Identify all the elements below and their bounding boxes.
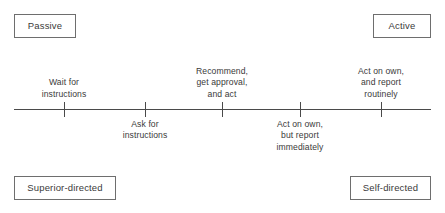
tick-label-act-on-own-and-report-routinely: Act on own,and reportroutinely: [358, 66, 404, 100]
tick-label-line: routinely: [358, 89, 404, 100]
tick-label-line: get approval,: [196, 77, 248, 88]
tick-label-ask-for-instructions: Ask forinstructions: [123, 119, 168, 142]
tick-mark-act-on-own-but-report-immediately: [300, 102, 301, 117]
tick-label-line: Wait for: [42, 77, 87, 88]
label-box-passive: Passive: [14, 14, 76, 38]
tick-label-line: Recommend,: [196, 66, 248, 77]
tick-mark-ask-for-instructions: [145, 102, 146, 117]
tick-label-act-on-own-but-report-immediately: Act on own,but reportimmediately: [277, 119, 324, 153]
tick-label-line: Act on own,: [277, 119, 324, 130]
label-box-superior-directed-text: Superior-directed: [27, 183, 102, 193]
tick-mark-recommend-get-approval-and-act: [222, 102, 223, 117]
label-box-superior-directed: Superior-directed: [14, 176, 116, 200]
tick-label-line: Ask for: [123, 119, 168, 130]
label-box-active-text: Active: [389, 21, 416, 31]
tick-label-line: but report: [277, 130, 324, 141]
tick-label-recommend-get-approval-and-act: Recommend,get approval,and act: [196, 66, 248, 100]
label-box-passive-text: Passive: [28, 21, 62, 31]
tick-mark-wait-for-instructions: [64, 102, 65, 117]
delegation-continuum-diagram: Passive Active Superior-directed Self-di…: [0, 0, 445, 213]
label-box-self-directed-text: Self-directed: [363, 183, 418, 193]
tick-label-line: instructions: [42, 89, 87, 100]
tick-label-line: and act: [196, 89, 248, 100]
tick-mark-act-on-own-and-report-routinely: [381, 102, 382, 117]
tick-label-line: immediately: [277, 142, 324, 153]
tick-label-wait-for-instructions: Wait forinstructions: [42, 77, 87, 100]
tick-label-line: Act on own,: [358, 66, 404, 77]
tick-label-line: instructions: [123, 130, 168, 141]
label-box-self-directed: Self-directed: [350, 176, 431, 200]
label-box-active: Active: [373, 14, 431, 38]
tick-label-line: and report: [358, 77, 404, 88]
